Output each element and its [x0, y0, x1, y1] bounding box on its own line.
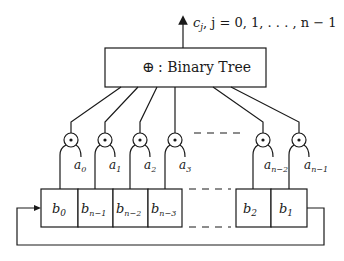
svg-text:a3: a3 — [179, 158, 191, 174]
register-b2: b2 — [236, 189, 271, 227]
svg-text:cj, j = 0, 1, . . . , n − 1: cj, j = 0, 1, . . . , n − 1 — [193, 15, 336, 32]
multiplier-1: a1 — [95, 133, 121, 189]
xor-icon: ⊕ — [142, 58, 155, 76]
register-bn-2: bn−2 — [113, 189, 148, 227]
multiplier-3: a3 — [165, 133, 191, 189]
register-b1: b1 — [271, 189, 307, 227]
output-range: , j = 0, 1, . . . , n − 1 — [203, 15, 336, 30]
binary-tree-label: : Binary Tree — [158, 59, 251, 75]
feedback-arrow-icon — [34, 205, 41, 211]
svg-text:an−2: an−2 — [264, 158, 288, 174]
register-bn-3: bn−3 — [148, 189, 182, 227]
multiplier-n-2: an−2 — [253, 133, 288, 189]
svg-text:an−1: an−1 — [304, 158, 328, 174]
output-label: cj, j = 0, 1, . . . , n − 1 — [193, 15, 336, 32]
svg-text:a1: a1 — [109, 158, 121, 174]
register-b0: b0 — [41, 189, 78, 227]
svg-text:a0: a0 — [74, 158, 86, 174]
binary-tree-box: ⊕ : Binary Tree — [105, 48, 266, 87]
multiplier-0: a0 — [60, 133, 86, 189]
multiplier-2: a2 — [130, 133, 156, 189]
tree-connectors — [71, 87, 299, 133]
svg-text:a2: a2 — [144, 158, 156, 174]
register-bn-1: bn−1 — [78, 189, 113, 227]
multiplier-n-1: an−1 — [289, 133, 328, 189]
diagram-canvas: cj, j = 0, 1, . . . , n − 1 ⊕ : Binary T… — [0, 0, 344, 261]
